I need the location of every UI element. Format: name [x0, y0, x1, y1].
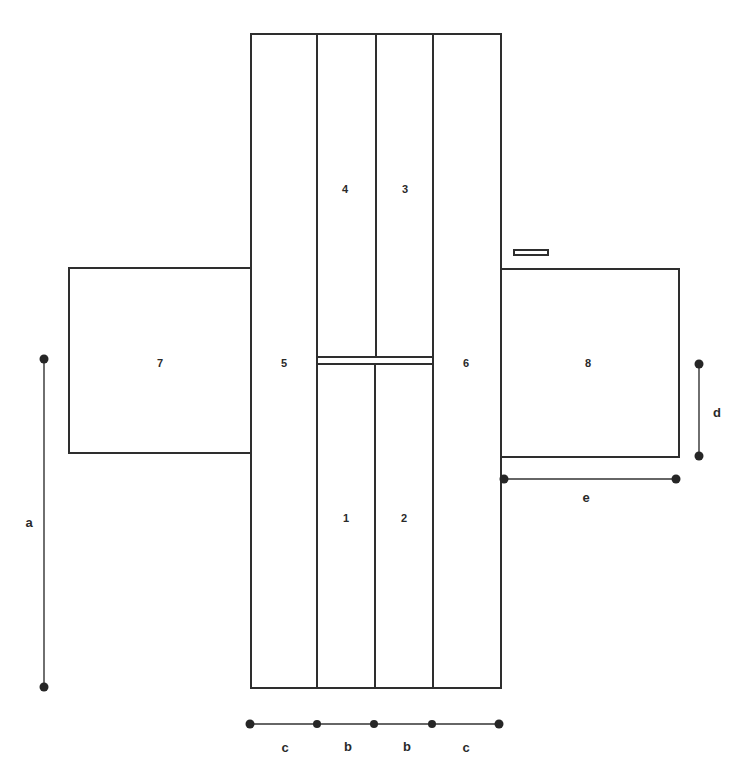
dimension-d	[695, 360, 704, 461]
dimension-chain-bottom	[246, 720, 504, 729]
panel-label-5: 5	[281, 357, 287, 369]
panel-label-2: 2	[401, 512, 407, 524]
panel-label-3: 3	[402, 183, 408, 195]
panel-label-1: 1	[343, 512, 349, 524]
diagram-canvas: 1 2 3 4 5 6 7 8 a d e c b b c	[0, 0, 749, 771]
small-marker	[514, 250, 548, 255]
dimension-label-d: d	[713, 405, 721, 420]
dimension-label-b-left: b	[344, 739, 352, 754]
dimension-label-a: a	[25, 515, 33, 530]
dimension-label-b-right: b	[403, 739, 411, 754]
panel-label-4: 4	[342, 183, 349, 195]
dimension-label-c-right: c	[462, 740, 469, 755]
dimension-e	[500, 475, 681, 484]
panel-label-6: 6	[463, 357, 469, 369]
dimension-label-c-left: c	[281, 740, 288, 755]
dimension-label-e: e	[582, 490, 589, 505]
panel-label-7: 7	[157, 357, 163, 369]
dimension-a	[40, 355, 49, 692]
panel-label-8: 8	[585, 357, 591, 369]
